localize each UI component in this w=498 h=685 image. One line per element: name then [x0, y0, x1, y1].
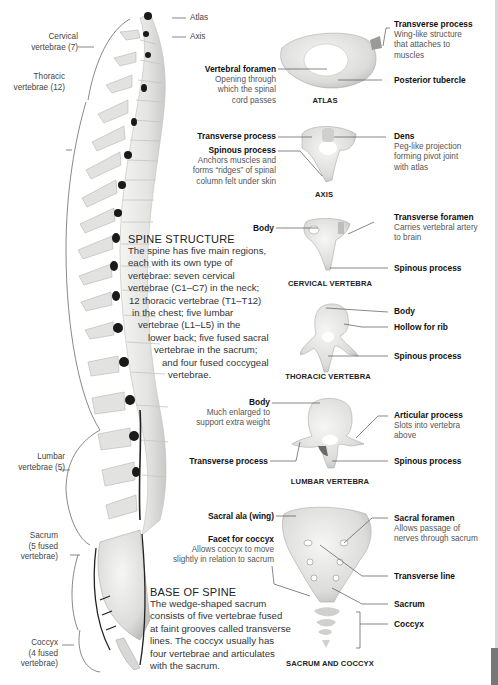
label-line: Cervical — [20, 32, 78, 43]
callout-title: Body — [180, 397, 270, 408]
callout-desc: Much enlarged to — [180, 408, 270, 419]
label-lumbar-vertebrae: Lumbar vertebrae (5) — [10, 452, 65, 473]
text-line: each with its own type of — [128, 257, 269, 269]
callout-desc: above — [394, 431, 463, 442]
label-axis: Axis — [190, 32, 205, 43]
text-line: The wedge-shaped sacrum — [150, 598, 291, 610]
label-cervical-vertebrae: Cervical vertebrae (7) — [20, 32, 78, 53]
callout-desc: Allows passage of — [394, 524, 478, 535]
callout-sacrum: Sacrum — [394, 599, 425, 610]
label-coccyx: Coccyx (4 fused vertebrae) — [10, 638, 58, 670]
label-line: vertebrae) — [10, 552, 58, 563]
caption-atlas: ATLAS — [300, 96, 350, 105]
callout-desc: Anchors muscles and — [150, 156, 276, 167]
callout-desc: Slots into vertebra — [394, 421, 463, 432]
callout-vertebral-foramen: Vertebral foramen Opening through which … — [180, 64, 276, 106]
callout-desc: forming pivot joint — [394, 152, 461, 163]
sacrum-coccyx-illustration — [282, 507, 371, 648]
text-line: vertebrae (L1–L5) in the — [138, 319, 269, 331]
callout-cervical-spinous-process: Spinous process — [394, 263, 461, 274]
callout-desc: support extra weight — [180, 418, 270, 429]
callout-desc: column felt under skin — [150, 177, 276, 188]
callout-axis-spinous-process: Spinous process Anchors muscles and form… — [150, 145, 276, 187]
spine-structure-section: SPINE STRUCTURE The spine has five main … — [128, 233, 269, 381]
lumbar-vertebra-illustration — [292, 398, 364, 468]
callout-lumbar-transverse-process: Transverse process — [180, 456, 268, 467]
label-line: vertebrae (5) — [10, 463, 65, 474]
callout-desc: forms “ridges” of spinal — [150, 166, 276, 177]
text-line: in the chest; five lumbar — [132, 307, 269, 319]
text-line: and four fused coccygeal — [162, 357, 269, 369]
label-thoracic-vertebrae: Thoracic vertebrae (12) — [5, 72, 65, 93]
callout-dens: Dens Peg-like projection forming pivot j… — [394, 131, 461, 173]
callout-title: Vertebral foramen — [180, 64, 276, 75]
caption-thoracic-vertebra: THORACIC VERTEBRA — [278, 372, 378, 381]
label-atlas: Atlas — [190, 13, 208, 24]
callout-cervical-body: Body — [230, 223, 274, 234]
text-line: vertebrae. — [168, 369, 269, 381]
text-line: vertebrae in the sacrum; — [154, 344, 269, 356]
page-tab-marker — [491, 648, 498, 685]
label-line: (5 fused — [10, 542, 58, 553]
caption-lumbar-vertebra: LUMBAR VERTEBRA — [285, 477, 375, 486]
spine-structure-title: SPINE STRUCTURE — [128, 233, 269, 245]
caption-sacrum-and-coccyx: SACRUM AND COCCYX — [270, 659, 390, 668]
callout-title: Articular process — [394, 410, 463, 421]
callout-desc: which the spinal — [180, 85, 276, 96]
callout-desc: Opening through — [180, 75, 276, 86]
callout-title: Dens — [394, 131, 461, 142]
thoracic-vertebra-illustration — [300, 304, 358, 372]
callout-title: Spinous process — [150, 145, 276, 156]
callout-title: Transverse process — [394, 19, 473, 30]
label-line: Coccyx — [10, 638, 58, 649]
callout-posterior-tubercle: Posterior tubercle — [394, 75, 466, 86]
callout-desc: cord passes — [180, 96, 276, 107]
label-line: Lumbar — [10, 452, 65, 463]
callout-desc: Allows coccyx to move — [150, 545, 274, 556]
label-line: Thoracic — [5, 72, 65, 83]
callout-thoracic-body: Body — [394, 306, 415, 317]
callout-articular-process: Articular process Slots into vertebra ab… — [394, 410, 463, 442]
callout-desc: that attaches to — [394, 40, 473, 51]
spine-structure-text: The spine has five main regions, each wi… — [128, 245, 269, 381]
label-line: vertebrae) — [10, 659, 58, 670]
label-line: vertebrae (7) — [20, 43, 78, 54]
text-line: vertebrae (C1–C7) in the neck; — [128, 282, 269, 294]
callout-axis-transverse-process: Transverse process — [180, 131, 276, 142]
callout-title: Sacral foramen — [394, 513, 478, 524]
label-line: vertebrae (12) — [5, 83, 65, 94]
callout-sacral-foramen: Sacral foramen Allows passage of nerves … — [394, 513, 478, 545]
text-line: lower back; five fused sacral — [148, 332, 269, 344]
text-line: at faint grooves called transverse — [150, 623, 291, 635]
text-line: lines. The coccyx usually has — [150, 635, 291, 647]
callout-desc: slightly in relation to sacrum — [150, 555, 274, 566]
callout-coccyx: Coccyx — [394, 619, 424, 630]
label-line: Sacrum — [10, 531, 58, 542]
callout-desc: Peg-like projection — [394, 142, 461, 153]
callout-lumbar-spinous-process: Spinous process — [394, 456, 461, 467]
caption-axis: AXIS — [304, 190, 344, 199]
callout-sacral-ala: Sacral ala (wing) — [180, 511, 274, 522]
callout-desc: Carries vertebral artery — [394, 223, 478, 234]
label-sacrum: Sacrum (5 fused vertebrae) — [10, 531, 58, 563]
callout-facet-for-coccyx: Facet for coccyx Allows coccyx to move s… — [150, 534, 274, 566]
callout-title: Facet for coccyx — [150, 534, 274, 545]
callout-desc: Wing-like structure — [394, 30, 473, 41]
callout-desc: muscles — [394, 51, 473, 62]
callout-desc: with atlas — [394, 163, 461, 174]
label-line: (4 fused — [10, 649, 58, 660]
text-line: The spine has five main regions, — [128, 245, 269, 257]
cervical-vertebra-illustration — [304, 219, 350, 271]
callout-lumbar-body: Body Much enlarged to support extra weig… — [180, 397, 270, 429]
base-of-spine-title: BASE OF SPINE — [150, 586, 291, 598]
callout-title: Transverse foramen — [394, 212, 478, 223]
callout-transverse-foramen: Transverse foramen Carries vertebral art… — [394, 212, 478, 244]
text-line: consists of five vertebrae fused — [150, 610, 291, 622]
text-line: vertebrae: seven cervical — [128, 270, 269, 282]
callout-desc: to brain — [394, 233, 478, 244]
callout-atlas-transverse-process: Transverse process Wing-like structure t… — [394, 19, 473, 61]
axis-illustration — [302, 127, 356, 183]
caption-cervical-vertebra: CERVICAL VERTEBRA — [280, 279, 380, 288]
callout-thoracic-spinous-process: Spinous process — [394, 351, 461, 362]
callout-desc: nerves through sacrum — [394, 534, 478, 545]
